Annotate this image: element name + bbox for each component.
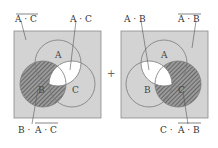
right-venn-diagram: A B C A · B A · B C · A · B (121, 14, 208, 135)
left-label-A: A (54, 50, 62, 60)
right-label-C: C (178, 85, 185, 95)
left-top-right-label: A · C (69, 14, 92, 24)
right-top-right-label: A · B (177, 14, 200, 24)
left-bottom-label-prefix: B · (18, 125, 30, 135)
left-bottom-label-over: A · C (34, 125, 57, 135)
left-label-C: C (72, 85, 79, 95)
right-label-A: A (160, 50, 168, 60)
right-label-B: B (144, 85, 151, 95)
right-top-left-label: A · B (123, 14, 146, 24)
left-venn-diagram: A B C A · C A · C B · A · C (14, 14, 101, 135)
venn-figure: A B C A · C A · C B · A · C + A B C (0, 0, 218, 148)
left-top-left-label: A · C (14, 14, 37, 24)
right-bottom-label-over: A · B (177, 125, 200, 135)
right-bottom-label-prefix: C · (160, 125, 173, 135)
left-label-B: B (38, 85, 45, 95)
plus-operator: + (107, 68, 115, 79)
